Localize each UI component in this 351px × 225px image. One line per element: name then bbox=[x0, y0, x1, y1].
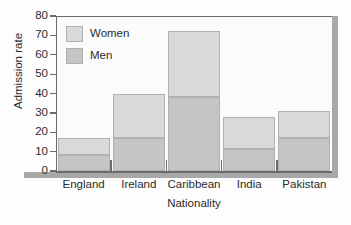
y-axis-tick-label-text: 40 bbox=[26, 88, 48, 99]
chart-figure: 01020304050607080 Admission rate England… bbox=[0, 0, 351, 225]
bar-segment-women bbox=[278, 111, 330, 138]
y-axis-tick bbox=[50, 93, 56, 94]
x-axis-tick bbox=[221, 160, 223, 171]
bar-segment-women bbox=[113, 94, 165, 138]
bar-segment-men bbox=[58, 155, 110, 171]
y-axis-tick-label-text: 50 bbox=[26, 68, 48, 79]
y-axis-tick bbox=[50, 74, 56, 75]
y-axis-tick bbox=[50, 112, 56, 113]
y-axis-tick-label-text: 0 bbox=[26, 165, 48, 176]
bar-group bbox=[223, 16, 275, 171]
y-axis-tick-label-text: 20 bbox=[26, 126, 48, 137]
y-axis-tick-label-text: 60 bbox=[26, 49, 48, 60]
bar-segment-men bbox=[278, 138, 330, 171]
legend-label-men: Men bbox=[90, 49, 112, 61]
bar-segment-women bbox=[58, 138, 110, 154]
y-axis-tick-label-text: 10 bbox=[26, 146, 48, 157]
x-axis-category-label: Caribbean bbox=[166, 178, 221, 190]
bar-group bbox=[113, 16, 165, 171]
bar-segment-men bbox=[168, 97, 220, 171]
bar-segment-women bbox=[223, 117, 275, 149]
x-axis-line bbox=[56, 171, 332, 173]
y-axis-tick bbox=[50, 151, 56, 152]
x-axis-title: Nationality bbox=[56, 197, 332, 209]
bar-group bbox=[278, 16, 330, 171]
x-axis-category-label: Pakistan bbox=[277, 178, 332, 190]
y-axis-tick bbox=[50, 15, 56, 16]
x-axis-category-label: England bbox=[56, 178, 111, 190]
figure-shadow-right bbox=[332, 16, 338, 178]
bar-group bbox=[168, 16, 220, 171]
y-axis-title: Admission rate bbox=[12, 16, 24, 126]
y-axis-tick bbox=[50, 35, 56, 36]
y-axis-tick-label-text: 30 bbox=[26, 107, 48, 118]
bar-segment-men bbox=[113, 138, 165, 171]
x-axis-tick bbox=[110, 160, 112, 171]
y-axis-tick-label-text: 80 bbox=[26, 10, 48, 21]
y-axis-tick bbox=[50, 170, 56, 171]
bar-segment-women bbox=[168, 31, 220, 98]
legend-swatch-men-icon bbox=[66, 48, 83, 64]
x-axis-tick bbox=[276, 160, 278, 171]
y-axis-tick-label-text: 70 bbox=[26, 29, 48, 40]
y-axis-tick bbox=[50, 54, 56, 55]
legend-swatch-women-icon bbox=[66, 26, 83, 42]
y-axis-tick bbox=[50, 132, 56, 133]
x-axis-category-label: Ireland bbox=[111, 178, 166, 190]
bar-segment-men bbox=[223, 149, 275, 171]
x-axis-tick bbox=[166, 160, 168, 171]
legend-label-women: Women bbox=[90, 27, 129, 39]
x-axis-category-label: India bbox=[222, 178, 277, 190]
